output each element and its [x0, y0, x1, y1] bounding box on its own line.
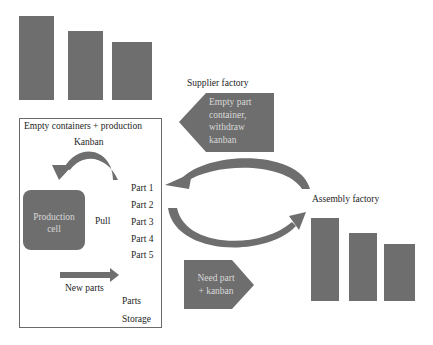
- kanban-loop-arrow-icon: [52, 151, 118, 180]
- supplier-factory-title: Supplier factory: [187, 79, 248, 89]
- part-2-label: Part 2: [131, 201, 153, 211]
- parts-storage-label-1: Parts: [122, 297, 141, 307]
- supplier-signal-text: Empty part container, withdraw kanban: [209, 96, 251, 146]
- production-box-title: Empty containers + production: [24, 122, 142, 132]
- assembly-signal-text: Need part + kanban: [186, 272, 246, 297]
- parts-storage-label-2: Storage: [122, 315, 151, 325]
- supplier-factory-bars-icon: [19, 16, 152, 100]
- assembly-factory-title: Assembly factory: [312, 195, 379, 205]
- assembly-factory-bars-icon: [311, 218, 415, 301]
- new-parts-arrow-icon: [60, 268, 119, 282]
- production-cell-label: Production cell: [23, 211, 85, 235]
- part-4-label: Part 4: [131, 235, 153, 245]
- kanban-label: Kanban: [74, 138, 104, 148]
- delivery-flow-arrow-icon: [168, 208, 306, 247]
- pull-label: Pull: [95, 217, 110, 227]
- new-parts-label: New parts: [65, 284, 104, 294]
- part-3-label: Part 3: [131, 218, 153, 228]
- withdraw-flow-arrow-icon: [165, 158, 310, 189]
- part-5-label: Part 5: [131, 251, 153, 261]
- part-1-label: Part 1: [131, 184, 153, 194]
